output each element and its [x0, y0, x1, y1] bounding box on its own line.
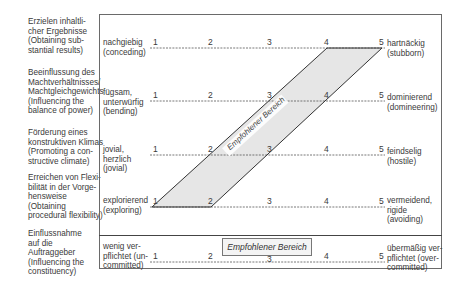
scale-number: 2 — [208, 251, 213, 261]
scale-number: 3 — [267, 90, 272, 100]
recommended-range-box: Empfohlener Bereich — [222, 238, 312, 256]
scale-number: 5 — [379, 251, 384, 261]
scale-number: 1 — [153, 251, 158, 261]
scale-number: 1 — [153, 196, 158, 206]
scale-number: 1 — [153, 37, 158, 47]
scale-number: 4 — [324, 144, 329, 154]
recommended-band — [152, 48, 382, 207]
scale-number: 5 — [379, 37, 384, 47]
scale-number: 2 — [208, 196, 213, 206]
scale-number: 3 — [267, 196, 272, 206]
scale-number: 5 — [379, 144, 384, 154]
scale-number: 1 — [153, 144, 158, 154]
scale-number: 4 — [324, 251, 329, 261]
scale-number: 5 — [379, 90, 384, 100]
scale-number: 4 — [324, 196, 329, 206]
scale-number: 2 — [208, 37, 213, 47]
scale-number: 5 — [379, 196, 384, 206]
scale-number: 2 — [208, 144, 213, 154]
scale-number: 3 — [267, 144, 272, 154]
scale-number: 3 — [267, 37, 272, 47]
scale-number: 4 — [324, 37, 329, 47]
scale-number: 4 — [324, 90, 329, 100]
scale-number: 2 — [208, 90, 213, 100]
scale-number: 1 — [153, 90, 158, 100]
